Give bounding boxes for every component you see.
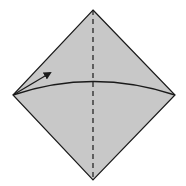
diagram-canvas <box>0 0 186 186</box>
origami-diagram <box>0 0 186 186</box>
paper-square <box>13 10 175 180</box>
